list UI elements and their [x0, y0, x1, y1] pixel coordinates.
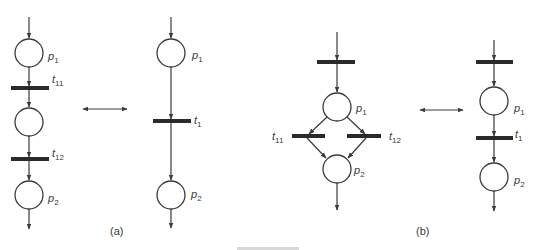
transition-input	[317, 60, 355, 64]
place-intermediate	[15, 108, 43, 136]
transition-t12-label: t12	[52, 147, 65, 162]
arc-t12-to-p2	[348, 138, 366, 158]
place-p1	[323, 93, 351, 121]
panel-a-left-net: p1 t11 t12 p2	[11, 17, 65, 229]
place-p2-label: p2	[47, 192, 59, 207]
arc-p1-to-t12	[347, 117, 365, 134]
place-p2	[480, 163, 508, 191]
panel-b-right-net: p1 t1 p2	[476, 40, 525, 211]
transition-t12	[347, 134, 381, 138]
transition-t1-label: t1	[194, 114, 202, 129]
place-p1-label: p1	[355, 102, 367, 117]
place-p2	[15, 181, 43, 209]
transition-t12	[11, 157, 49, 161]
place-p1-label: p1	[47, 50, 59, 65]
place-p2	[323, 155, 351, 183]
transition-input	[476, 60, 513, 64]
petri-net-diagram: p1 t11 t12 p2 p1 t1 p2	[0, 0, 539, 250]
place-p2-label: p2	[190, 188, 202, 203]
transition-t11	[292, 134, 325, 138]
arc-t11-to-p2	[307, 138, 326, 158]
panel-a-right-net: p1 t1 p2	[153, 17, 203, 228]
caption-b: (b)	[416, 225, 429, 237]
transition-t1-label: t1	[515, 128, 523, 143]
panel-b: p1 t11 t12 p2 p1 t1	[272, 32, 525, 237]
place-p2-label: p2	[513, 174, 525, 189]
place-p1-label: p1	[191, 49, 203, 64]
place-p1	[157, 39, 185, 67]
place-p1	[480, 87, 508, 115]
panel-b-left-net: p1 t11 t12 p2	[272, 32, 402, 210]
place-p1	[15, 39, 43, 67]
caption-a: (a)	[110, 225, 123, 237]
place-p2	[157, 181, 185, 209]
transition-t11-label: t11	[272, 130, 284, 145]
panel-a: p1 t11 t12 p2 p1 t1 p2	[11, 17, 203, 237]
place-p2-label: p2	[353, 164, 365, 179]
transition-t11	[11, 86, 49, 90]
place-p1-label: p1	[513, 102, 525, 117]
transition-t1	[476, 136, 513, 140]
arc-p1-to-t11	[309, 117, 327, 134]
transition-t1	[153, 119, 191, 123]
transition-t12-label: t12	[389, 130, 402, 145]
transition-t11-label: t11	[52, 73, 64, 88]
